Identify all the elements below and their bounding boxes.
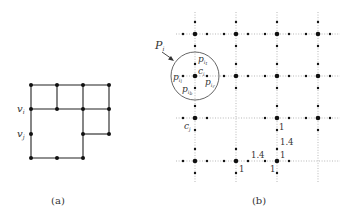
node-vj <box>29 132 33 136</box>
weight-label: 1 <box>270 164 275 174</box>
node <box>81 156 85 160</box>
node <box>107 107 111 111</box>
cell-centers <box>193 32 321 164</box>
node <box>29 83 33 87</box>
graph-a <box>31 85 109 158</box>
node <box>81 83 85 87</box>
node <box>81 107 85 111</box>
caption-a: (a) <box>51 195 65 206</box>
label-vj: vj <box>17 128 25 141</box>
node-vi <box>29 107 33 111</box>
label-pib: pib <box>182 84 192 96</box>
label-ci: ci <box>198 66 205 77</box>
arrow-icon <box>162 52 174 61</box>
label-Pi: Pi <box>154 39 164 52</box>
node <box>81 132 85 136</box>
node <box>55 107 59 111</box>
node <box>29 156 33 160</box>
center-ci <box>193 74 198 79</box>
weight-label: 1.4 <box>280 137 294 147</box>
figure-canvas: vi vj (a) <box>0 0 354 216</box>
caption-b: (b) <box>252 195 266 206</box>
label-cj: cj <box>184 121 191 133</box>
weight-label: 1 <box>280 150 285 160</box>
graph-a-nodes <box>29 83 111 160</box>
node <box>107 132 111 136</box>
node <box>55 156 59 160</box>
label-vi: vi <box>17 103 25 115</box>
node <box>107 83 111 87</box>
label-pit: pit <box>198 54 207 66</box>
weight-label: 1 <box>239 164 244 174</box>
label-pil: pil <box>173 72 182 84</box>
center-cj <box>193 116 198 121</box>
weight-label: 1.4 <box>251 150 265 160</box>
label-pir: pir <box>205 77 215 89</box>
weight-label: 1 <box>279 122 284 132</box>
node <box>55 83 59 87</box>
